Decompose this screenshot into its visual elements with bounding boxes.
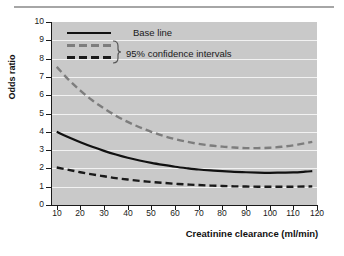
data-curve (57, 167, 313, 186)
legend-row-confidence-intervals: 95% confidence intervals (60, 42, 260, 70)
chart-plot-region: 012345678910 102030405060708090100110120… (0, 0, 344, 256)
legend-brace-icon (112, 40, 122, 64)
data-curve (57, 67, 313, 148)
legend-row-base-line: Base line (60, 26, 260, 40)
legend-swatch-upper-ci (67, 44, 111, 47)
legend-label-confidence-intervals: 95% confidence intervals (126, 47, 232, 61)
legend-label-base-line: Base line (133, 26, 172, 40)
chart-legend: Base line 95% confidence intervals (60, 26, 260, 66)
legend-swatch-base-line (67, 32, 111, 34)
legend-swatch-lower-ci (67, 56, 111, 59)
data-curve (57, 132, 313, 173)
figure-container: 012345678910 102030405060708090100110120… (0, 0, 344, 256)
